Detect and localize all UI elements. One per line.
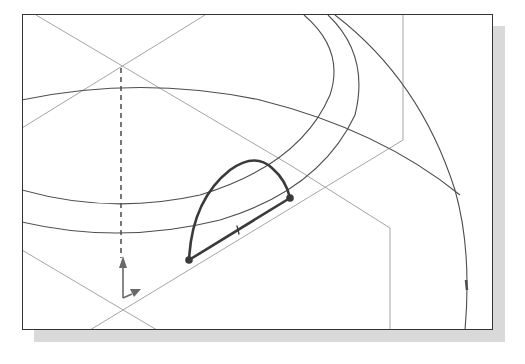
arc-highlight-mark [466,280,467,290]
arc-curves [22,15,467,330]
profile-line[interactable] [189,198,290,260]
outer-arc [335,15,467,330]
construction-line-diag-1b [290,165,390,228]
profile-endpoint-end[interactable] [286,194,294,202]
ellipse-arc-top [22,88,460,196]
construction-line-diag-4 [90,140,403,330]
profile-endpoint-start[interactable] [185,256,193,264]
construction-line-diag-1 [36,15,290,165]
construction-line-diag-2 [22,15,205,128]
concentric-arc-inner [22,15,334,204]
coordinate-triad-icon [119,256,141,298]
closed-profile[interactable] [189,160,290,260]
sketch-canvas[interactable] [0,0,525,364]
triad-diagonal-axis [123,294,132,298]
construction-lines [22,15,403,330]
triad-diagonal-arrow-icon [130,289,141,297]
profile-arc[interactable] [189,160,290,260]
